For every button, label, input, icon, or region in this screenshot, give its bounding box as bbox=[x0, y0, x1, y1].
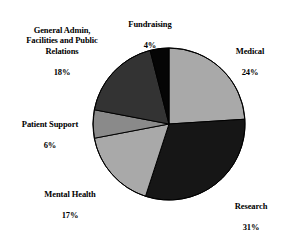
slice-label-general-admin: General Admin, Facilities and Public Rel… bbox=[6, 14, 118, 88]
slice-label-general-admin-percent: 18% bbox=[6, 67, 118, 78]
slice-label-mental-health: Mental Health 17% bbox=[22, 178, 118, 231]
slice-label-research: Research 31% bbox=[218, 190, 284, 232]
slice-label-patient-support-percent: 6% bbox=[2, 140, 98, 151]
slice-label-patient-support-text: Patient Support bbox=[2, 119, 98, 130]
slice-label-medical-percent: 24% bbox=[216, 67, 284, 78]
slice-label-fundraising-percent: 4% bbox=[114, 40, 186, 51]
slice-label-medical: Medical 24% bbox=[216, 35, 284, 88]
slice-label-patient-support: Patient Support 6% bbox=[2, 108, 98, 161]
slice-label-mental-health-text: Mental Health bbox=[22, 189, 118, 200]
slice-label-fundraising: Fundraising 4% bbox=[114, 8, 186, 61]
slice-label-fundraising-text: Fundraising bbox=[114, 19, 186, 30]
pie-chart-figure: General Admin, Facilities and Public Rel… bbox=[0, 0, 287, 232]
slice-label-mental-health-percent: 17% bbox=[22, 210, 118, 221]
slice-label-research-text: Research bbox=[218, 201, 284, 212]
slice-label-general-admin-text: General Admin, Facilities and Public Rel… bbox=[6, 25, 118, 57]
slice-label-medical-text: Medical bbox=[216, 46, 284, 57]
slice-label-research-percent: 31% bbox=[218, 222, 284, 233]
